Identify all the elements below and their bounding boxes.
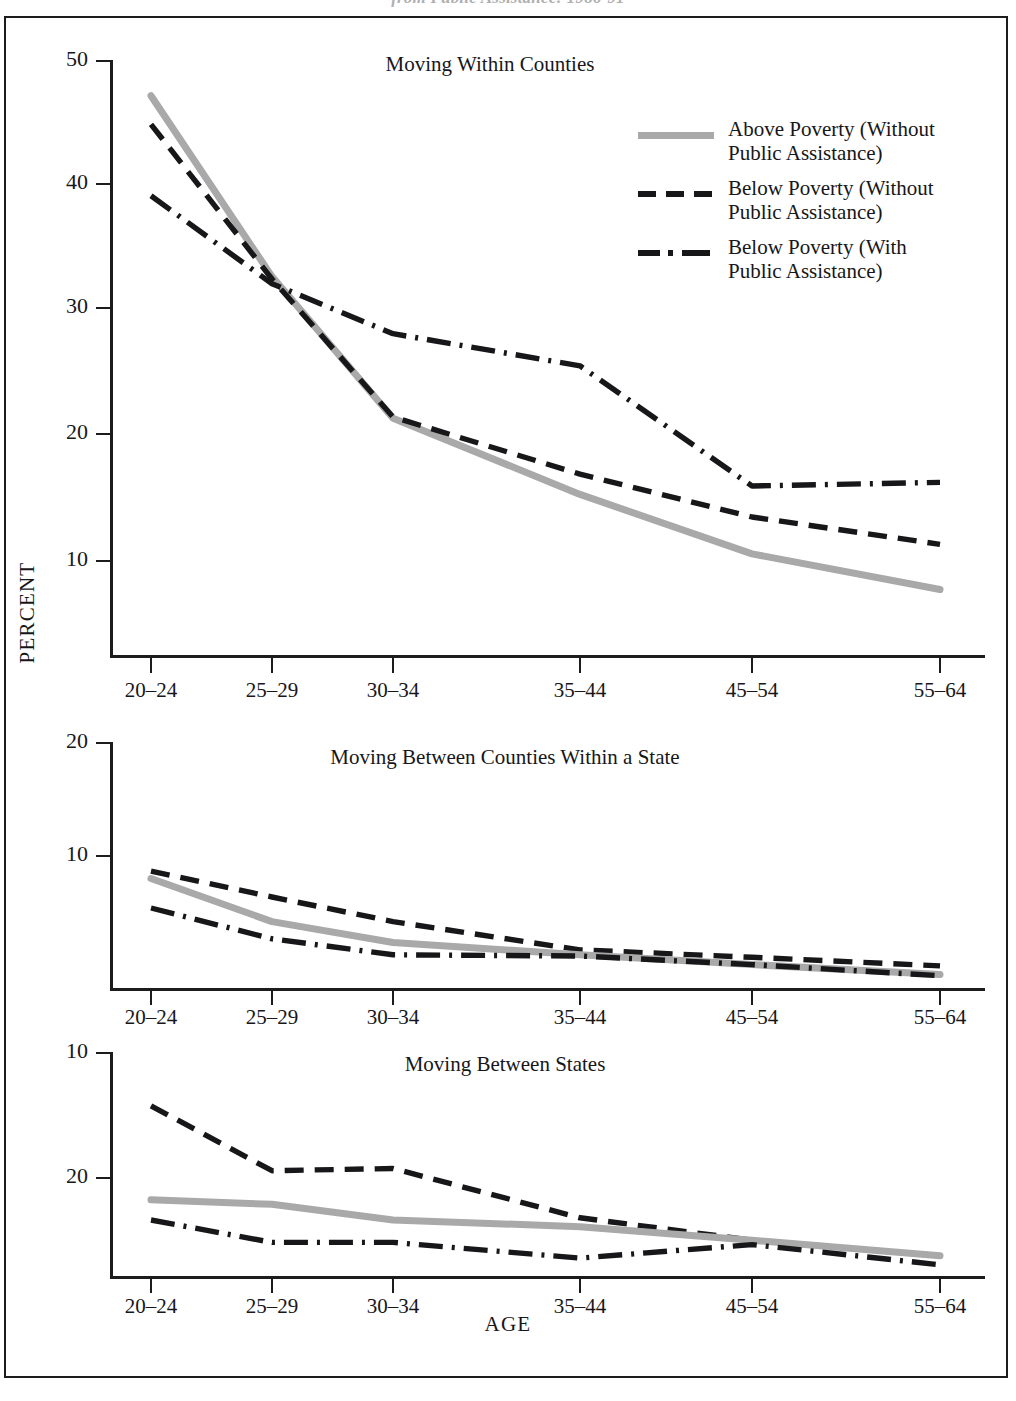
panel3-lines xyxy=(0,0,1016,1401)
figure-page: from Public Assistance: 1986-91 PERCENT … xyxy=(0,0,1016,1401)
panel3-series-above-poverty xyxy=(151,1200,940,1256)
panel3-series-below-poverty-without xyxy=(151,1106,940,1256)
